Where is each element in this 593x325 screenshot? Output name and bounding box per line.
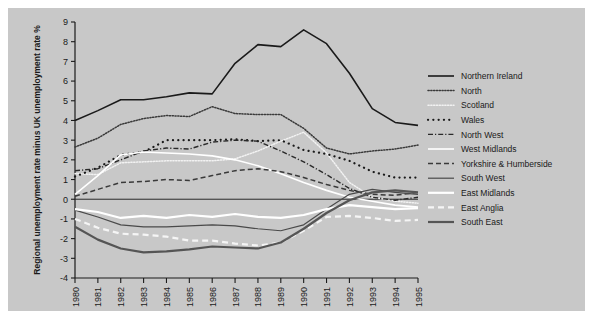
y-tick-label: 2 (63, 155, 68, 165)
x-tick-label: 1984 (162, 287, 172, 307)
x-tick-label: 1980 (71, 287, 81, 307)
x-tick-label: 1990 (299, 287, 309, 307)
x-tick-label: 1981 (93, 287, 103, 307)
x-tick-label: 1983 (139, 287, 149, 307)
chart-figure: 9876543210-1-2-3-41980198119821983198419… (0, 0, 593, 325)
y-tick-label: 8 (63, 37, 68, 47)
legend-label-south-west: South West (461, 173, 505, 183)
legend-label-east-midlands: East Midlands (461, 188, 514, 198)
legend-label-east-anglia: East Anglia (461, 203, 504, 213)
y-tick-label: -1 (60, 214, 68, 224)
x-tick-label: 1993 (368, 287, 378, 307)
series-line-scotland (75, 132, 418, 203)
y-tick-label: 4 (63, 116, 68, 126)
y-tick-label: 0 (63, 195, 68, 205)
x-tick-label: 1987 (231, 287, 241, 307)
series-line-yorkshire-humberside (75, 169, 418, 197)
legend-label-wales: Wales (461, 115, 484, 125)
x-tick-label: 1986 (208, 287, 218, 307)
y-tick-label: -4 (60, 273, 68, 283)
series-line-north (75, 107, 418, 154)
y-tick-label: 9 (63, 17, 68, 27)
legend: Northern IrelandNorthScotlandWalesNorth … (428, 71, 553, 227)
y-tick-label: 5 (63, 96, 68, 106)
x-tick-label: 1982 (116, 287, 126, 307)
legend-label-south-east: South East (461, 217, 503, 227)
y-axis-title: Regional unemployment rate minus UK unem… (32, 25, 42, 275)
y-tick-label: -3 (60, 254, 68, 264)
x-tick-label: 1992 (345, 287, 355, 307)
series-line-east-anglia (75, 216, 418, 246)
series-line-northern-ireland (75, 30, 418, 126)
y-tick-label: -2 (60, 234, 68, 244)
legend-label-yorkshire-humberside: Yorkshire & Humberside (461, 159, 553, 169)
series-line-east-midlands (75, 205, 418, 218)
legend-label-north-west: North West (461, 130, 504, 140)
x-tick-label: 1994 (391, 287, 401, 307)
x-tick-label: 1988 (253, 287, 263, 307)
y-tick-label: 3 (63, 136, 68, 146)
y-tick-label: 7 (63, 57, 68, 67)
series-group (75, 30, 418, 253)
x-tick-label: 1995 (414, 287, 424, 307)
x-tick-label: 1991 (322, 287, 332, 307)
chart-screenshot: 9876543210-1-2-3-41980198119821983198419… (0, 0, 593, 325)
y-tick-label: 6 (63, 76, 68, 86)
line-chart: 9876543210-1-2-3-41980198119821983198419… (0, 0, 593, 325)
x-tick-label: 1985 (185, 287, 195, 307)
y-tick-label: 1 (63, 175, 68, 185)
x-tick-label: 1989 (276, 287, 286, 307)
legend-label-northern-ireland: Northern Ireland (461, 71, 523, 81)
legend-label-west-midlands: West Midlands (461, 144, 517, 154)
legend-label-scotland: Scotland (461, 100, 494, 110)
legend-label-north: North (461, 86, 482, 96)
